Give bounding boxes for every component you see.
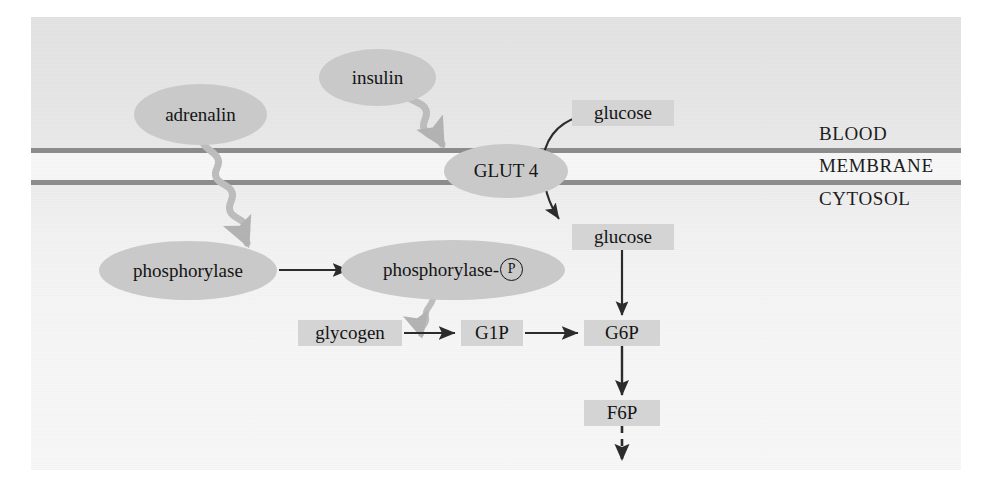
metabolite-glucose-blood: glucose xyxy=(572,100,674,126)
circled-phosphate-icon: P xyxy=(500,258,523,281)
node-phosphorylase: phosphorylase xyxy=(99,241,277,300)
compartment-label-cytosol: CYTOSOL xyxy=(819,188,910,210)
compartment-label-blood: BLOOD xyxy=(819,123,887,145)
metabolite-glycogen: glycogen xyxy=(298,320,402,346)
node-glut4-transporter: GLUT 4 xyxy=(444,144,568,198)
figure-canvas: BLOOD MEMBRANE CYTOSOL adrenalin insulin… xyxy=(0,0,994,484)
node-insulin: insulin xyxy=(319,49,436,106)
node-phosphorylase-phosphorylated: phosphorylase-P xyxy=(341,240,565,300)
edge-adrenalin-signal xyxy=(203,143,247,243)
metabolite-g6p: G6P xyxy=(584,320,660,346)
edge-phosphorylase-p-signal xyxy=(421,299,433,334)
metabolite-glucose-cytosol: glucose xyxy=(572,224,674,250)
node-adrenalin: adrenalin xyxy=(134,84,267,145)
figure-plate: BLOOD MEMBRANE CYTOSOL adrenalin insulin… xyxy=(31,17,961,470)
metabolite-g1p: G1P xyxy=(461,320,523,346)
compartment-label-membrane: MEMBRANE xyxy=(819,155,934,177)
metabolite-f6p: F6P xyxy=(584,400,660,426)
edge-insulin-signal xyxy=(408,97,442,144)
phosphorylase-p-label: phosphorylase- xyxy=(383,259,499,281)
